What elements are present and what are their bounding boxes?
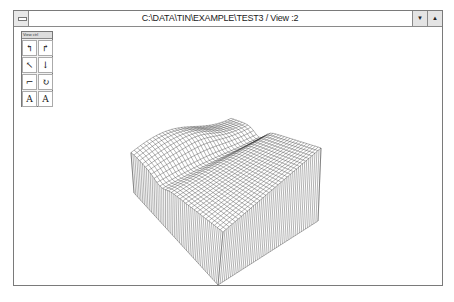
tilt-down-tool-button[interactable]: ↓ xyxy=(38,57,53,73)
rotate-left-icon: ↰ xyxy=(26,43,34,53)
rotate-right-tool-button[interactable]: ↱ xyxy=(38,40,53,56)
rotate-right-icon: ↱ xyxy=(42,43,50,53)
title-bar[interactable]: C:\DATA\TIN\EXAMPLE\TEST3 / View :2 ▼ ▲ xyxy=(14,11,442,27)
view-window: C:\DATA\TIN\EXAMPLE\TEST3 / View :2 ▼ ▲ … xyxy=(13,10,443,286)
view-client-area[interactable]: View ctrl ↰ ↱ ↖ ↓ ⌐ ↻ A A xyxy=(14,27,442,285)
turn-icon: ⌐ xyxy=(26,77,34,87)
toolbox-title[interactable]: View ctrl xyxy=(22,32,52,39)
spin-tool-button[interactable]: ↻ xyxy=(38,74,53,90)
minimize-button[interactable]: ▼ xyxy=(412,11,427,26)
system-menu-button[interactable] xyxy=(14,11,29,26)
zoom-out-tool-button[interactable]: A xyxy=(38,91,53,107)
spin-icon: ↻ xyxy=(42,77,50,87)
rotate-left-tool-button[interactable]: ↰ xyxy=(22,40,37,56)
window-title: C:\DATA\TIN\EXAMPLE\TEST3 / View :2 xyxy=(30,12,410,25)
tilt-up-tool-button[interactable]: ↖ xyxy=(22,57,37,73)
tilt-down-icon: ↓ xyxy=(42,60,50,70)
turn-tool-button[interactable]: ⌐ xyxy=(22,74,37,90)
tilt-up-icon: ↖ xyxy=(26,60,34,70)
zoom-in-icon: A xyxy=(26,94,33,104)
terrain-3d-view[interactable] xyxy=(14,27,442,285)
zoom-out-icon: A xyxy=(42,94,49,104)
zoom-in-tool-button[interactable]: A xyxy=(22,91,37,107)
system-menu-icon xyxy=(18,17,27,21)
maximize-button[interactable]: ▲ xyxy=(427,11,442,26)
view-control-toolbox: View ctrl ↰ ↱ ↖ ↓ ⌐ ↻ A A xyxy=(21,31,53,107)
